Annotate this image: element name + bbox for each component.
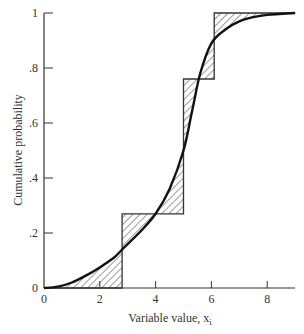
x-tick-label: 0 [41, 292, 47, 306]
x-tick-label: 6 [208, 292, 214, 306]
x-tick-label: 2 [97, 292, 103, 306]
smooth-cdf-curve [44, 13, 295, 288]
y-tick-label: .8 [29, 61, 38, 75]
axes [44, 13, 295, 288]
hatched-difference-regions [44, 13, 295, 288]
x-tick-label: 8 [264, 292, 270, 306]
y-tick-label: 1 [32, 6, 38, 20]
step-function-line [44, 13, 295, 288]
x-tick-label: 4 [153, 292, 159, 306]
hatched-area [44, 13, 295, 288]
y-tick-label: 0 [32, 281, 38, 295]
chart: 024680.2.4.6.81 Cumulative probability V… [0, 0, 304, 334]
y-axis-title: Cumulative probability [11, 94, 25, 206]
y-tick-label: .2 [29, 226, 38, 240]
ticks: 024680.2.4.6.81 [29, 6, 270, 306]
y-tick-label: .6 [29, 116, 38, 130]
x-axis-title: Variable value, xi [128, 311, 212, 327]
y-tick-label: .4 [29, 171, 38, 185]
